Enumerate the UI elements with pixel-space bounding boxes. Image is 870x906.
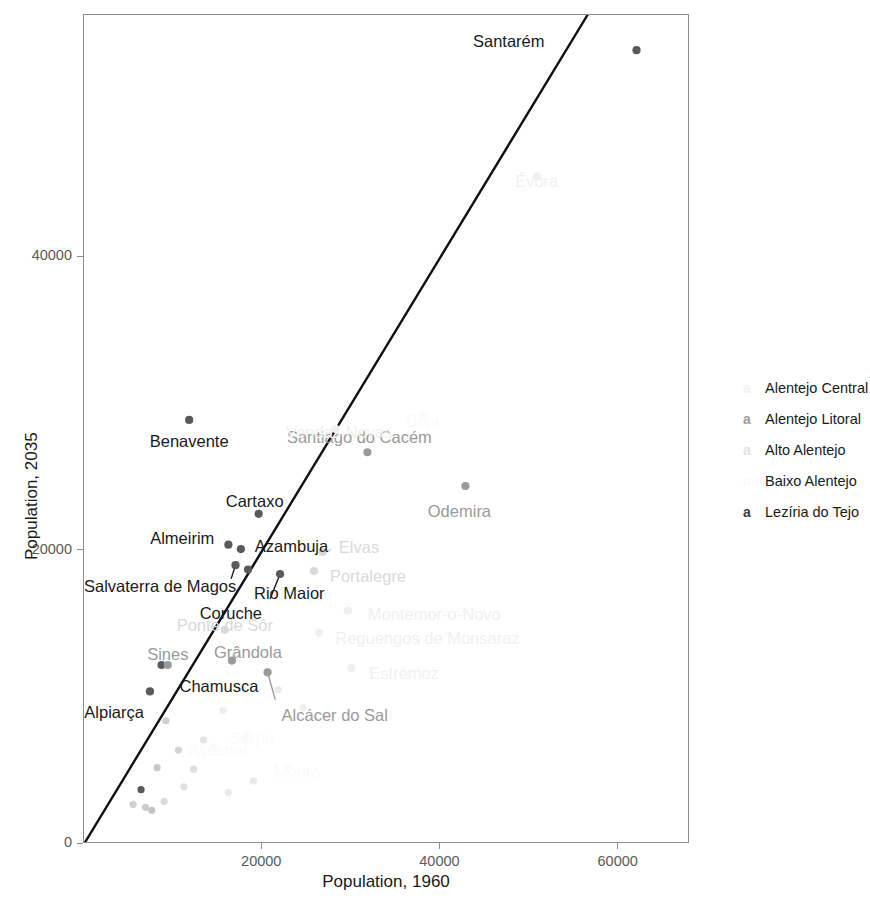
- data-point: [344, 607, 352, 615]
- point-label: Elvas: [339, 539, 379, 556]
- y-tick-label: 40000: [0, 247, 72, 263]
- legend-item: aAlentejo Central: [737, 372, 870, 403]
- point-label: Odemira: [259, 503, 659, 520]
- y-tick-mark: [77, 843, 83, 844]
- point-label: Sines: [83, 646, 368, 663]
- data-point: [129, 801, 136, 808]
- point-label: Beja: [223, 413, 623, 430]
- data-point: [263, 668, 271, 676]
- legend-item: aAlto Alentejo: [737, 434, 870, 465]
- x-tick-label: 20000: [201, 853, 321, 869]
- data-point: [310, 567, 318, 575]
- point-label: Azambuja: [255, 538, 328, 555]
- x-tick-label: 60000: [558, 853, 678, 869]
- data-point: [225, 789, 232, 796]
- data-point: [142, 804, 149, 811]
- point-label: Chamusca: [180, 678, 259, 695]
- data-point: [137, 786, 144, 793]
- data-point: [219, 707, 226, 714]
- plot-panel: SantarémBenaventeCartaxoAlmeirimAzambuja…: [83, 14, 689, 843]
- data-point: [632, 46, 640, 54]
- point-label: Alpiarça: [84, 704, 144, 721]
- point-label: Almeirim: [84, 530, 214, 547]
- data-point: [275, 686, 282, 693]
- point-label: Aljustrel: [83, 742, 418, 759]
- legend-item: aLezíria do Tejo: [737, 496, 870, 527]
- x-tick-label: 40000: [379, 853, 499, 869]
- point-label: Reguengos de Monsaraz: [335, 630, 519, 647]
- data-point: [161, 798, 168, 805]
- legend-item: aAlentejo Litoral: [737, 403, 870, 434]
- point-label: Estremoz: [369, 665, 439, 682]
- point-label: Rio Maior: [254, 585, 325, 602]
- y-tick-mark: [77, 549, 83, 550]
- scatter-plot-figure: SantarémBenaventeCartaxoAlmeirimAzambuja…: [0, 0, 870, 906]
- x-axis-title: Population, 1960: [0, 872, 772, 892]
- point-label: Santarém: [84, 33, 545, 50]
- data-point: [180, 783, 187, 790]
- point-label: Évora: [337, 173, 689, 190]
- legend-key-glyph: a: [737, 412, 757, 426]
- legend-item-label: Alentejo Central: [765, 380, 868, 396]
- x-tick-mark: [261, 843, 262, 849]
- data-point: [224, 541, 232, 549]
- point-label: Alcácer do Sal: [282, 707, 388, 724]
- legend-key-glyph: a: [737, 443, 757, 457]
- x-tick-mark: [617, 843, 618, 849]
- legend-key-glyph: a: [737, 505, 757, 519]
- y-tick-mark: [77, 256, 83, 257]
- data-point: [231, 561, 239, 569]
- data-point: [237, 545, 245, 553]
- legend-item-label: Lezíria do Tejo: [765, 504, 859, 520]
- data-point: [244, 566, 252, 574]
- data-point: [162, 717, 169, 724]
- y-axis-title: Population, 2035: [22, 432, 42, 560]
- point-label: Portalegre: [330, 568, 406, 585]
- legend-item-label: Baixo Alentejo: [765, 473, 857, 489]
- y-tick-label: 0: [0, 834, 72, 850]
- legend: aAlentejo CentralaAlentejo LitoralaAlto …: [737, 372, 870, 527]
- data-point: [146, 687, 154, 695]
- point-label: Moura: [97, 763, 497, 780]
- legend-key-glyph: a: [737, 381, 757, 395]
- label-leader-line: [268, 672, 276, 699]
- legend-item-label: Alentejo Litoral: [765, 411, 861, 427]
- legend-key-glyph: a: [737, 474, 757, 488]
- point-label: Montemor-o-Novo: [368, 606, 501, 623]
- data-point: [148, 807, 155, 814]
- legend-item-label: Alto Alentejo: [765, 442, 846, 458]
- legend-item: aBaixo Alentejo: [737, 465, 870, 496]
- data-point: [347, 664, 355, 672]
- data-point: [461, 482, 469, 490]
- x-tick-mark: [439, 843, 440, 849]
- data-point: [276, 570, 284, 578]
- point-label: Salvaterra de Magos: [84, 578, 228, 595]
